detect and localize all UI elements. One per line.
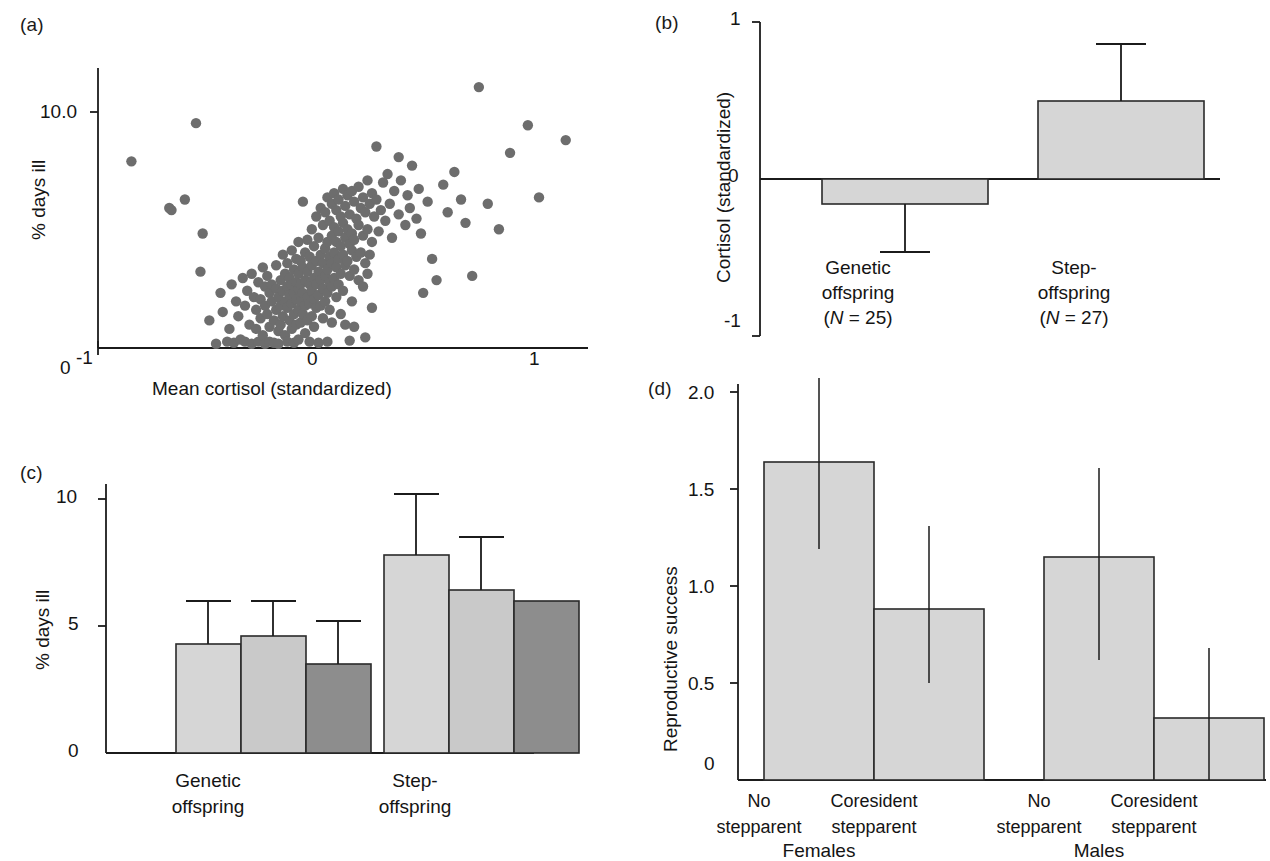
panel-d: (d) Reproductive success 2.0 1.5 1.0 0.5… — [620, 360, 1254, 847]
panel-c: (c) % days ill 10 5 0 Genetic offspring … — [0, 420, 620, 847]
scatter-point — [340, 319, 350, 329]
panel-c-bar-genetic-1 — [176, 644, 241, 753]
scatter-point — [126, 156, 136, 166]
scatter-point — [422, 196, 432, 206]
panel-c-label: (c) — [20, 462, 43, 484]
scatter-point — [224, 324, 234, 334]
scatter-point — [353, 220, 363, 230]
scatter-point — [389, 186, 399, 196]
scatter-point — [233, 311, 243, 321]
panel-c-bar-genetic-3 — [306, 664, 371, 753]
scatter-point — [427, 254, 437, 264]
scatter-point — [561, 135, 571, 145]
scatter-point — [246, 269, 256, 279]
scatter-point — [382, 169, 392, 179]
panel-d-barlabel-3-line2: stepparent — [1094, 814, 1214, 840]
panel-d-barlabel-2-line1: No — [984, 788, 1094, 814]
scatter-point — [416, 228, 426, 238]
panel-b-ytick-1: 1 — [730, 8, 741, 30]
panel-d-ytick-1: 1.0 — [688, 576, 714, 598]
scatter-point — [360, 332, 370, 342]
scatter-point — [273, 339, 283, 349]
scatter-point — [180, 194, 190, 204]
panel-b-cat1-n: (N = 25) — [788, 305, 928, 330]
panel-c-cat2-line1: Step- — [335, 768, 495, 794]
scatter-point — [324, 305, 334, 315]
panel-c-bar-genetic-2 — [241, 636, 306, 753]
panel-a-plot — [40, 50, 600, 370]
scatter-point — [322, 336, 332, 346]
scatter-point — [293, 237, 303, 247]
scatter-point — [218, 307, 228, 317]
scatter-point — [166, 205, 176, 215]
scatter-point — [405, 203, 415, 213]
scatter-point — [534, 192, 544, 202]
scatter-point — [456, 194, 466, 204]
panel-d-ytick-0: 0 — [704, 753, 715, 775]
panel-b: (b) Cortisol (standardized) 1 0 -1 Genet… — [620, 0, 1254, 360]
scatter-point — [400, 220, 410, 230]
scatter-point — [385, 199, 395, 209]
panel-d-barlabel-3: Coresident stepparent — [1094, 788, 1214, 840]
scatter-point — [336, 309, 346, 319]
scatter-point — [231, 296, 241, 306]
scatter-point — [356, 247, 366, 257]
panel-c-cat1-line1: Genetic — [128, 768, 288, 794]
panel-d-ytick-05: 0.5 — [688, 673, 714, 695]
panel-b-ytick-neg1: -1 — [724, 310, 741, 332]
panel-d-group-females: Females — [759, 840, 879, 861]
scatter-point — [226, 279, 236, 289]
panel-c-ytick-10: 10 — [56, 486, 77, 508]
scatter-point — [371, 194, 381, 204]
scatter-point — [313, 233, 323, 243]
scatter-point — [271, 260, 281, 270]
scatter-point — [523, 120, 533, 130]
scatter-point — [362, 224, 372, 234]
scatter-point — [215, 288, 225, 298]
panel-a-xlabel: Mean cortisol (standardized) — [152, 378, 392, 400]
panel-c-cat2-label: Step- offspring — [335, 768, 495, 820]
panel-d-barlabel-1-line2: stepparent — [814, 814, 934, 840]
scatter-point — [396, 175, 406, 185]
panel-d-barlabel-3-line1: Coresident — [1094, 788, 1214, 814]
scatter-point — [402, 190, 412, 200]
panel-d-ytick-15: 1.5 — [688, 479, 714, 501]
scatter-point — [309, 322, 319, 332]
panel-d-barlabel-0: No stepparent — [704, 788, 814, 840]
scatter-point — [338, 286, 348, 296]
panel-c-ytick-0: 0 — [68, 740, 79, 762]
scatter-point — [460, 218, 470, 228]
panel-b-bar-genetic — [822, 179, 988, 204]
panel-c-bar-step-1 — [384, 555, 449, 753]
scatter-point — [197, 228, 207, 238]
scatter-point — [494, 224, 504, 234]
scatter-point — [318, 313, 328, 323]
panel-c-cat2-line2: offspring — [335, 794, 495, 820]
panel-b-ylabel: Cortisol (standardized) — [713, 92, 735, 283]
panel-b-cat2-line1: Step- — [1004, 255, 1144, 280]
scatter-point — [327, 317, 337, 327]
panel-a: (a) % days ill 10.0 0 -1 0 1 Mean cortis… — [0, 0, 620, 400]
scatter-point — [349, 235, 359, 245]
panel-c-plot — [86, 472, 556, 802]
scatter-point — [367, 303, 377, 313]
panel-c-bar-step-2 — [449, 590, 514, 753]
panel-c-bar-step-3 — [514, 601, 579, 753]
scatter-point — [240, 300, 250, 310]
panel-b-cat1-label: Genetic offspring (N = 25) — [788, 255, 928, 330]
panel-d-label: (d) — [648, 378, 672, 400]
panel-c-ylabel: % days ill — [32, 590, 54, 670]
scatter-point — [313, 338, 323, 348]
panel-b-cat1-line2: offspring — [788, 280, 928, 305]
panel-d-barlabel-0-line2: stepparent — [704, 814, 814, 840]
scatter-point — [342, 256, 352, 266]
scatter-point — [204, 315, 214, 325]
scatter-point — [474, 82, 484, 92]
panel-b-cat1-line1: Genetic — [788, 255, 928, 280]
scatter-point — [449, 167, 459, 177]
scatter-point — [298, 196, 308, 206]
scatter-point — [442, 207, 452, 217]
scatter-point — [353, 182, 363, 192]
scatter-point — [191, 118, 201, 128]
panel-b-cat2-n: (N = 27) — [1004, 305, 1144, 330]
